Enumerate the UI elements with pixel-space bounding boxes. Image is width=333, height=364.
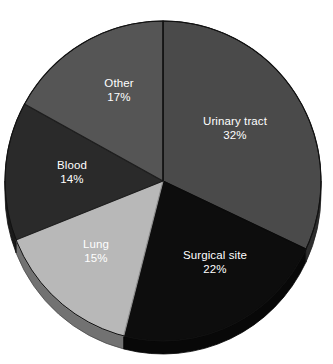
pie-slices-group [5,21,321,341]
pie-chart-canvas [0,0,333,364]
pie-chart-figure: Urinary tract 32% Surgical site 22% Lung… [0,0,333,364]
